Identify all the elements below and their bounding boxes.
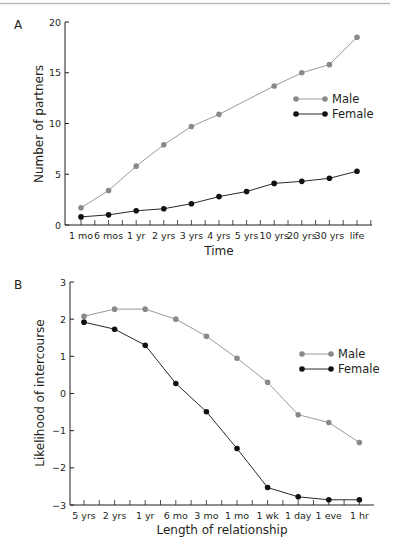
x-tick-label: 1 day (285, 510, 312, 521)
data-point-female (142, 342, 148, 348)
x-tick-label: 4 yrs (207, 230, 231, 241)
y-tick-label: −1 (52, 425, 66, 436)
data-point-female (81, 319, 87, 325)
x-tick-label: 10 yrs (259, 230, 289, 241)
data-point-female (189, 201, 195, 207)
x-tick-label: 6 mo (164, 510, 188, 521)
data-point-female (327, 176, 333, 182)
x-tick-label: 1 yr (136, 510, 155, 521)
data-point-male (142, 306, 148, 312)
legend-marker-male (322, 96, 328, 102)
y-tick-label: 20 (49, 17, 61, 28)
data-point-female (244, 189, 250, 195)
x-tick-label: 1 yr (127, 230, 146, 241)
data-point-male (133, 163, 139, 169)
data-point-male (265, 380, 271, 386)
data-point-male (234, 355, 240, 361)
y-tick-label: 0 (55, 220, 61, 231)
y-tick-label: 5 (55, 169, 61, 180)
data-point-male (354, 34, 360, 40)
x-tick-label: 1 mo (69, 230, 93, 241)
data-point-female (133, 208, 139, 214)
axes-a: 051015201 mo6 mos1 yr2 yrs3 yrs4 yrs5 yr… (49, 17, 372, 242)
chart-panel-a: A Number of partners Time 051015201 mo6 … (14, 17, 374, 259)
y-tick-label: 10 (49, 118, 61, 129)
data-point-male (106, 188, 112, 194)
data-point-female (204, 409, 210, 415)
data-point-male (216, 112, 222, 118)
y-tick-label: 1 (60, 351, 66, 362)
series-line-male (81, 37, 357, 208)
y-tick-label: 0 (60, 388, 66, 399)
legend-label-male: Male (338, 347, 365, 361)
legend-label-female: Female (338, 362, 380, 376)
x-tick-label: 2 yrs (152, 230, 176, 241)
marks-b (81, 306, 362, 502)
panel-label-a: A (14, 18, 23, 32)
legend-marker-male (293, 96, 299, 102)
data-point-female (354, 168, 360, 174)
data-point-female (78, 214, 84, 220)
data-point-male (295, 412, 301, 418)
data-point-male (81, 313, 87, 319)
legend-marker-male (328, 351, 334, 357)
data-point-male (173, 316, 179, 322)
y-axis-title-b: Likelihood of intercourse (33, 319, 47, 467)
data-point-male (327, 62, 333, 68)
data-point-male (78, 205, 84, 211)
data-point-female (216, 194, 222, 200)
x-tick-label: 2 yrs (103, 510, 127, 521)
y-tick-label: 3 (60, 277, 66, 288)
data-point-male (189, 124, 195, 130)
data-point-female (112, 326, 118, 332)
data-point-female (271, 181, 277, 187)
axes-b: −3−2−101235 yrs2 yrs1 yr6 mo3 mo1 mo1 wk… (52, 277, 374, 522)
data-point-male (161, 142, 167, 148)
y-axis-title-a: Number of partners (32, 65, 46, 183)
y-tick-label: 2 (60, 314, 66, 325)
data-point-female (299, 179, 305, 185)
x-tick-label: 1 mo (225, 510, 249, 521)
x-tick-label: 30 yrs (315, 230, 345, 241)
y-tick-label: −2 (52, 462, 66, 473)
marks-a (78, 34, 360, 219)
chart-panel-b: B Likelihood of intercourse Length of re… (14, 277, 380, 538)
data-point-female (357, 497, 363, 503)
x-axis-title-b: Length of relationship (156, 523, 287, 537)
x-tick-label: 1 eve (316, 510, 343, 521)
x-axis-title-a: Time (203, 244, 233, 258)
legend-marker-female (293, 111, 299, 117)
data-point-female (173, 381, 179, 387)
data-point-female (234, 446, 240, 452)
figure: A Number of partners Time 051015201 mo6 … (0, 0, 398, 554)
panel-label-b: B (14, 278, 22, 292)
data-point-female (106, 212, 112, 218)
legend-marker-male (299, 351, 305, 357)
data-point-female (295, 494, 301, 500)
data-point-male (357, 440, 363, 446)
legend-marker-female (328, 366, 334, 372)
series-line-male (84, 309, 359, 442)
data-point-male (271, 83, 277, 89)
y-tick-label: −3 (52, 500, 66, 511)
x-tick-label: 6 mos (94, 230, 123, 241)
data-point-male (112, 306, 118, 312)
x-tick-label: life (350, 230, 365, 241)
series-line-female (84, 322, 359, 500)
x-tick-label: 3 yrs (180, 230, 204, 241)
data-point-female (161, 206, 167, 212)
legend-marker-female (322, 111, 328, 117)
data-point-female (326, 497, 332, 503)
legend-label-female: Female (332, 107, 374, 121)
data-point-male (326, 420, 332, 426)
legend-label-male: Male (332, 92, 359, 106)
data-point-female (265, 485, 271, 491)
data-point-male (204, 333, 210, 339)
data-point-male (299, 70, 305, 76)
x-tick-label: 5 yrs (72, 510, 96, 521)
x-tick-label: 5 yrs (235, 230, 259, 241)
legend-marker-female (299, 366, 305, 372)
x-tick-label: 3 mo (194, 510, 218, 521)
legend-b: MaleFemale (299, 347, 379, 376)
y-tick-label: 15 (49, 67, 61, 78)
